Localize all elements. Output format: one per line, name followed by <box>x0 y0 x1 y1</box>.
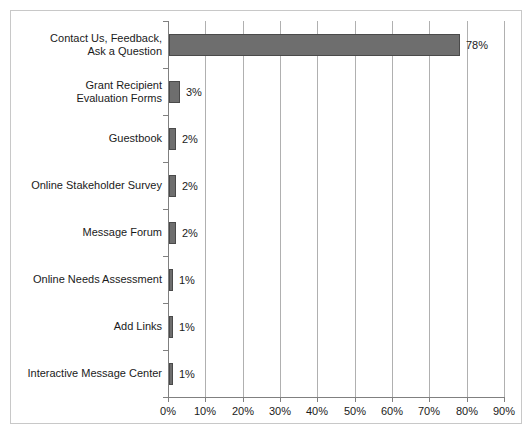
chart-frame: 0%10%20%30%40%50%60%70%80%90%Contact Us,… <box>10 10 522 424</box>
category-label: Online Stakeholder Survey <box>0 179 162 192</box>
x-axis-label: 90% <box>481 405 527 417</box>
y-tick <box>163 209 168 210</box>
bar <box>169 316 173 338</box>
bar-value-label: 2% <box>182 222 198 244</box>
bar <box>169 175 176 197</box>
bar <box>169 128 176 150</box>
y-tick <box>163 397 168 398</box>
gridline-10% <box>205 21 206 397</box>
x-tick <box>392 397 393 402</box>
category-label: Guestbook <box>0 132 162 145</box>
bar-value-label: 3% <box>186 81 202 103</box>
gridline-0% <box>168 21 169 397</box>
gridline-90% <box>504 21 505 397</box>
gridline-30% <box>280 21 281 397</box>
bar <box>169 222 176 244</box>
bar <box>169 34 460 56</box>
y-tick <box>163 68 168 69</box>
gridline-40% <box>317 21 318 397</box>
gridline-50% <box>355 21 356 397</box>
x-tick <box>243 397 244 402</box>
bar <box>169 363 173 385</box>
category-label: Online Needs Assessment <box>0 273 162 286</box>
category-label: Interactive Message Center <box>0 367 162 380</box>
bar-value-label: 78% <box>466 34 488 56</box>
gridline-60% <box>392 21 393 397</box>
bar <box>169 81 180 103</box>
y-tick <box>163 303 168 304</box>
gridline-70% <box>429 21 430 397</box>
category-label: Grant Recipient Evaluation Forms <box>0 79 162 105</box>
category-label: Contact Us, Feedback, Ask a Question <box>0 32 162 58</box>
y-tick <box>163 115 168 116</box>
x-tick <box>504 397 505 402</box>
x-tick <box>168 397 169 402</box>
plot-area <box>168 21 504 397</box>
y-tick <box>163 21 168 22</box>
x-tick <box>467 397 468 402</box>
bar <box>169 269 173 291</box>
x-tick <box>205 397 206 402</box>
gridline-80% <box>467 21 468 397</box>
bar-value-label: 1% <box>179 269 195 291</box>
x-axis-line <box>168 397 505 398</box>
bar-value-label: 1% <box>179 316 195 338</box>
category-label: Add Links <box>0 320 162 333</box>
category-label: Message Forum <box>0 226 162 239</box>
x-tick <box>317 397 318 402</box>
x-tick <box>355 397 356 402</box>
x-tick <box>280 397 281 402</box>
y-tick <box>163 350 168 351</box>
y-tick <box>163 162 168 163</box>
bar-value-label: 2% <box>182 175 198 197</box>
bar-value-label: 1% <box>179 363 195 385</box>
bar-value-label: 2% <box>182 128 198 150</box>
x-tick <box>429 397 430 402</box>
gridline-20% <box>243 21 244 397</box>
chart-screenshot: 0%10%20%30%40%50%60%70%80%90%Contact Us,… <box>0 0 532 434</box>
y-tick <box>163 256 168 257</box>
